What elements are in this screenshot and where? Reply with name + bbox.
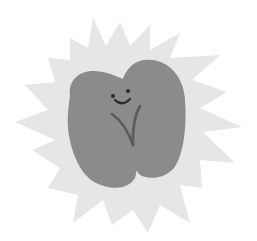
illustration: A grey two-lobed seed with a smiling fac… (0, 0, 257, 241)
left-eye-icon (111, 94, 115, 98)
right-eye-icon (126, 89, 130, 93)
bean-character (68, 60, 186, 188)
